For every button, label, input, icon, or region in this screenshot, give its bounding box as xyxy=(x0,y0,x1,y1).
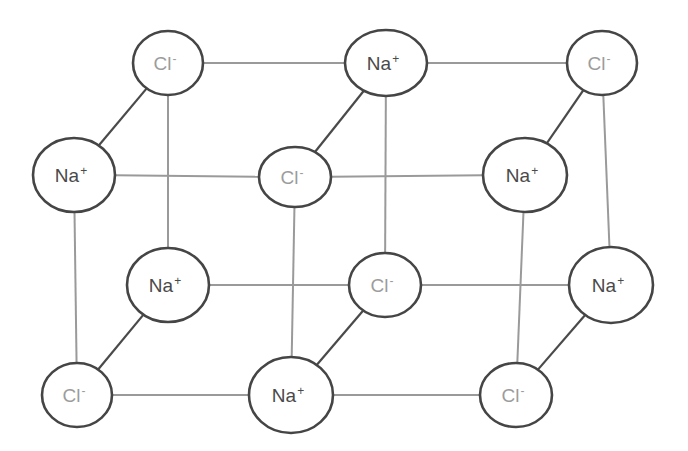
sodium-ion: Na+ xyxy=(249,357,333,433)
lattice-bond-line xyxy=(517,212,523,363)
lattice-bond-line xyxy=(115,175,259,176)
ion-charge: + xyxy=(617,274,624,288)
grid-lines-group xyxy=(75,63,610,395)
ion-charge: - xyxy=(389,274,393,288)
chloride-ion: Cl- xyxy=(480,363,552,427)
depth-bond-line xyxy=(317,310,364,364)
depth-bond-line xyxy=(538,315,585,370)
ion-symbol: Na xyxy=(367,53,392,74)
lattice-bond-line xyxy=(603,95,609,247)
ion-charge: + xyxy=(297,384,304,398)
ion-charge: + xyxy=(531,164,538,178)
ion-charge: - xyxy=(172,52,176,66)
ion-symbol: Cl xyxy=(588,53,606,74)
depth-bond-line xyxy=(99,88,147,145)
ion-symbol: Na xyxy=(592,275,617,296)
ion-symbol: Cl xyxy=(281,167,299,188)
sodium-ion: Na+ xyxy=(483,138,567,212)
chloride-ion: Cl- xyxy=(259,147,331,207)
ion-symbol: Cl xyxy=(154,53,172,74)
depth-bond-line xyxy=(547,90,584,143)
lattice-bond-line xyxy=(331,175,483,176)
lattice-bond-line xyxy=(292,207,295,357)
lattice-canvas: Cl-Na+Cl-Na+Cl-Na+Na+Cl-Na+Cl-Na+Cl- xyxy=(0,0,688,451)
sodium-ion: Na+ xyxy=(569,247,653,323)
ion-symbol: Cl xyxy=(371,275,389,296)
ions-group: Cl-Na+Cl-Na+Cl-Na+Na+Cl-Na+Cl-Na+Cl- xyxy=(33,30,653,433)
ion-symbol: Na xyxy=(272,385,297,406)
ion-charge: + xyxy=(392,52,399,66)
lattice-bond-line xyxy=(75,212,77,363)
sodium-ion: Na+ xyxy=(127,248,209,322)
ion-charge: - xyxy=(520,384,524,398)
ion-symbol: Cl xyxy=(502,385,520,406)
ion-symbol: Na xyxy=(149,275,174,296)
ion-symbol: Cl xyxy=(63,385,81,406)
depth-lines-group xyxy=(98,88,585,369)
depth-bond-line xyxy=(98,315,143,370)
chloride-ion: Cl- xyxy=(133,31,203,95)
chloride-ion: Cl- xyxy=(349,253,421,317)
lattice-bond-line xyxy=(385,96,386,253)
sodium-ion: Na+ xyxy=(33,138,115,212)
ion-charge: + xyxy=(174,274,181,288)
nacl-crystal-lattice-diagram: Cl-Na+Cl-Na+Cl-Na+Na+Cl-Na+Cl-Na+Cl- xyxy=(0,0,688,451)
ion-charge: - xyxy=(299,166,303,180)
chloride-ion: Cl- xyxy=(42,363,112,427)
ion-charge: + xyxy=(80,164,87,178)
chloride-ion: Cl- xyxy=(567,31,637,95)
ion-charge: - xyxy=(81,384,85,398)
ion-charge: - xyxy=(606,52,610,66)
ion-symbol: Na xyxy=(506,165,531,186)
depth-bond-line xyxy=(315,91,364,152)
sodium-ion: Na+ xyxy=(345,30,427,96)
ion-symbol: Na xyxy=(55,165,80,186)
